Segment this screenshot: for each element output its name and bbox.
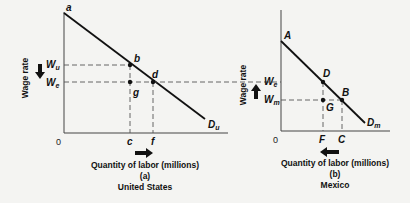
panel-a-quantity-right-arrow-icon [135,148,153,158]
panel-a-demand-curve [64,13,205,119]
panel-a-label-d: d [152,69,159,80]
panel-b-point-D [321,80,325,84]
panel-b-tick-C: C [338,134,346,145]
panel-a-origin: 0 [56,137,61,147]
panel-b-tick-F: F [319,134,326,145]
panel-a-curve-top-label: a [66,2,72,13]
panel-b-wage-we: We [264,76,277,88]
panel-b-mexico: A D B G We Wm Dm 0 F C Wage rate Quantit… [238,10,390,190]
panel-a-tick-c: c [127,136,133,147]
panel-b-y-axis-label: Wage rate [238,65,248,106]
panel-a-y-axis-label: Wage rate [20,58,30,99]
panel-a-point-d [151,80,155,84]
panel-b-curve-top-label: A [283,30,291,41]
panel-a-label-g: g [132,87,139,98]
panel-b-x-axis-label: Quantity of labor (millions) [281,158,389,168]
panel-a-letter: (a) [140,171,151,181]
panel-b-letter: (b) [330,169,341,179]
panel-a-point-g [128,80,132,84]
panel-b-demand-label: Dm [367,117,380,129]
panel-b-point-B [340,98,344,102]
panel-a-wage-down-arrow-icon [35,64,45,79]
panel-b-label-B: B [342,87,349,98]
panel-b-label-D: D [323,68,330,79]
panel-b-wage-wm: Wm [264,94,280,106]
panel-a-label-b: b [134,53,140,64]
panel-a-point-b [128,63,132,67]
panel-a-wage-we: We [46,77,59,89]
panel-b-quantity-left-arrow-icon [320,147,339,157]
panel-a-x-axis-label: Quantity of labor (millions) [91,160,199,170]
labor-migration-diagram: a b d g Wu We Du 0 c f Wage rate Quantit… [0,0,410,203]
panel-b-country: Mexico [321,180,350,190]
panel-a-wage-wu: Wu [46,59,60,71]
panel-a-demand-label: Du [208,119,220,131]
panel-a-country: United States [118,182,173,192]
panel-b-origin: 0 [273,135,278,145]
panel-b-label-G: G [326,102,334,113]
panel-a-tick-f: f [151,136,156,147]
panel-b-wage-up-arrow-icon [251,84,261,99]
panel-b-point-G [321,98,325,102]
